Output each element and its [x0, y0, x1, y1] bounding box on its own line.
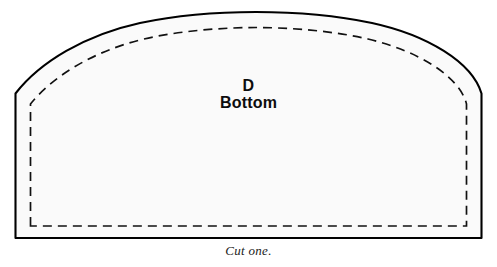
- pattern-piece-letter: D: [0, 77, 497, 94]
- cut-instruction-text: Cut one.: [0, 243, 497, 259]
- pattern-piece-drawing: [0, 0, 497, 267]
- pattern-cutting-line: [16, 12, 482, 238]
- pattern-piece-name: Bottom: [0, 94, 497, 111]
- pattern-sheet: D Bottom Cut one.: [0, 0, 497, 267]
